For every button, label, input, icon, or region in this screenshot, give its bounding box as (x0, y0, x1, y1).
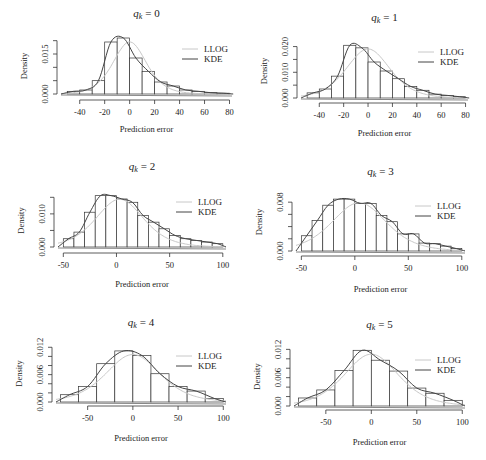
histogram-bar (142, 71, 154, 94)
legend: LLOGKDE (415, 201, 461, 221)
histogram-bar (115, 351, 133, 402)
x-axis-label: Prediction error (114, 433, 168, 443)
x-tick-label: -40 (314, 110, 325, 120)
x-axis-label: Prediction error (115, 279, 169, 289)
x-tick-label: 0 (131, 413, 135, 423)
legend-kde-label: KDE (437, 211, 456, 221)
panel-title: qk= 4 (128, 316, 155, 330)
y-tick-label: 0.008 (275, 193, 285, 212)
y-axis: 0.0000.0060.012 (35, 338, 52, 412)
y-axis-label: Density (254, 208, 264, 235)
y-tick-label: 0.000 (40, 84, 50, 103)
y-axis-label: Density (19, 52, 29, 79)
panel-title: qk= 0 (133, 7, 160, 21)
histogram-bar (323, 205, 334, 251)
x-tick-label: -50 (58, 260, 69, 270)
x-tick-label: 40 (413, 110, 422, 120)
legend-llog-label: LLOG (437, 355, 461, 365)
legend: LLOGKDE (418, 47, 464, 67)
y-axis-label: Density (252, 363, 262, 390)
x-axis-label: Prediction error (358, 128, 412, 138)
x-tick-label: -20 (99, 107, 110, 117)
histogram-bar (85, 212, 96, 247)
x-tick-label: 0 (114, 260, 118, 270)
baseline (58, 248, 226, 249)
x-tick-label: 20 (150, 107, 159, 117)
histogram-bar (95, 196, 106, 247)
y-tick-label: 0.000 (35, 392, 45, 411)
x-axis-label: Prediction error (353, 437, 407, 447)
baseline (61, 95, 232, 96)
histogram-bar (344, 199, 355, 251)
legend-llog-label: LLOG (204, 44, 228, 54)
legend-kde-label: KDE (198, 207, 217, 217)
panel-qk-2: qk= 20.0000.010Density-50050100Predictio… (16, 160, 229, 289)
x-tick-label: 100 (217, 413, 230, 423)
histogram-bar (390, 371, 408, 406)
x-tick-label: 60 (437, 110, 446, 120)
x-tick-label: 50 (413, 417, 422, 427)
x-tick-label: 50 (165, 260, 174, 270)
legend-llog-label: LLOG (437, 201, 461, 211)
histogram-bar (138, 216, 149, 247)
panel-qk-0: qk= 00.0000.015Density-40-20020406080Pre… (19, 7, 234, 134)
panel-title: qk= 3 (367, 165, 394, 179)
panel-qk-3: qk= 30.0000.008Density-50050100Predictio… (254, 165, 468, 294)
histogram-bar (371, 360, 389, 406)
histogram-bar (97, 364, 115, 402)
legend: LLOGKDE (415, 355, 461, 375)
x-tick-label: -50 (82, 413, 93, 423)
x-tick-label: 0 (353, 263, 357, 273)
y-tick-label: 0.010 (37, 204, 47, 223)
y-axis: 0.0000.008 (275, 193, 292, 261)
histogram-bar (333, 199, 344, 251)
x-axis: -50050100 (296, 256, 468, 273)
legend-kde-label: KDE (440, 57, 459, 67)
histogram-bar (355, 203, 366, 251)
histogram-bar (151, 374, 169, 402)
y-tick-label: 0.000 (275, 241, 285, 260)
baseline (56, 403, 226, 404)
y-tick-label: 0.012 (273, 340, 283, 359)
x-tick-label: 100 (456, 417, 469, 427)
x-axis: -50050100 (320, 410, 468, 427)
x-tick-label: 0 (128, 107, 132, 117)
x-axis: -50050100 (58, 253, 230, 270)
y-tick-label: 0.006 (273, 368, 283, 387)
y-tick-label: 0.000 (37, 237, 47, 256)
x-tick-label: -40 (74, 107, 85, 117)
histogram-bar (105, 42, 117, 94)
x-tick-label: 100 (455, 263, 468, 273)
x-tick-label: -50 (320, 417, 331, 427)
panel-title: qk= 1 (371, 11, 398, 25)
histogram-bar (368, 62, 380, 98)
histogram-bar (127, 202, 138, 247)
y-axis: 0.0000.015 (40, 41, 57, 104)
y-tick-label: 0.012 (35, 338, 45, 357)
legend-kde-label: KDE (204, 54, 223, 64)
baseline (296, 252, 465, 253)
x-axis: -40-20020406080 (74, 100, 234, 117)
y-axis: 0.0000.0100.020 (280, 37, 297, 108)
x-axis: -40-20020406080 (314, 103, 470, 120)
x-tick-label: 50 (174, 413, 183, 423)
legend-kde-label: KDE (437, 365, 456, 375)
y-tick-label: 0.000 (280, 88, 290, 107)
y-axis-label: Density (16, 207, 26, 234)
y-axis-label: Density (259, 57, 269, 84)
y-tick-label: 0.000 (273, 396, 283, 415)
x-tick-label: 40 (175, 107, 184, 117)
y-axis: 0.0000.010 (37, 197, 54, 256)
panel-qk-4: qk= 40.0000.0060.012Density-50050100Pred… (14, 316, 230, 443)
x-tick-label: 50 (404, 263, 413, 273)
y-tick-label: 0.015 (40, 44, 50, 63)
legend-llog-label: LLOG (198, 351, 222, 361)
histogram-bar (106, 196, 117, 247)
legend-llog-label: LLOG (440, 47, 464, 57)
panel-title: qk= 2 (129, 160, 156, 174)
legend: LLOGKDE (176, 351, 222, 371)
y-axis-label: Density (14, 360, 24, 387)
panel-qk-5: qk= 50.0000.0060.012Density-50050100Pred… (252, 318, 469, 447)
panel-qk-1: qk= 10.0000.0100.020Density-40-200204060… (259, 11, 470, 138)
figure-canvas: qk= 00.0000.015Density-40-20020406080Pre… (0, 0, 486, 460)
